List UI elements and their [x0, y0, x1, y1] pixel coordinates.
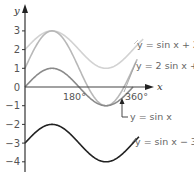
y-tick-label: 1 — [14, 63, 20, 74]
x-axis-label: x — [157, 81, 163, 92]
y-tick-label: 3 — [14, 25, 20, 36]
y-tick-label: −2 — [5, 119, 20, 130]
x-ticks-group: 180°360° — [63, 91, 148, 102]
series-line-3 — [25, 124, 139, 161]
y-tick-label: −1 — [5, 100, 20, 111]
y-tick-label: 0 — [14, 82, 20, 93]
x-tick-label: 360° — [125, 91, 148, 102]
y-tick-label: 2 — [14, 44, 20, 55]
x-axis-arrow-icon — [145, 84, 154, 90]
y-tick-label: −3 — [5, 138, 20, 149]
label-2-sin-x-plus-1: y = 2 sin x + — [136, 60, 194, 71]
label-sin-x-minus-3: y = sin x − 3 — [135, 136, 194, 147]
leader-sin-x — [122, 104, 128, 117]
label-sin-x: y = sin x — [130, 111, 172, 122]
y-tick-label: −4 — [5, 156, 20, 167]
y-ticks-group: 3210−1−2−3−4 — [5, 25, 25, 167]
x-tick-label: 180° — [63, 91, 86, 102]
chart: y x 3210−1−2−3−4 180°360° y = sin x + 2 … — [0, 0, 194, 176]
label-sin-x-plus-2: y = sin x + 2 — [137, 39, 194, 50]
y-axis-label: y — [13, 5, 20, 16]
y-axis-arrow-icon — [22, 4, 28, 13]
